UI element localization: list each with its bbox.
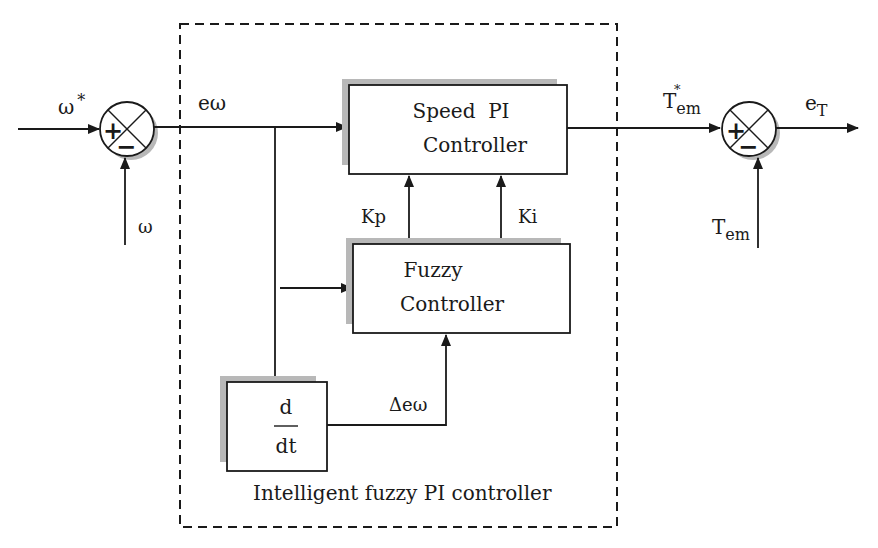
ki-label: Ki bbox=[518, 206, 537, 227]
derivative-block: d dt bbox=[220, 376, 327, 471]
omega-ref-label: ω* bbox=[58, 91, 85, 119]
derivative-numerator: d bbox=[280, 395, 293, 419]
derivative-denominator: dt bbox=[276, 434, 297, 458]
fuzzy-controller-block: Fuzzy Controller bbox=[346, 238, 570, 333]
minus-sign: − bbox=[738, 132, 758, 161]
tem-ref-label: Tem bbox=[663, 89, 701, 118]
tem-ref-star: * bbox=[674, 82, 681, 97]
delta-e-omega-signal-line bbox=[327, 335, 446, 425]
speed-error-summing-junction: + − bbox=[100, 102, 158, 161]
kp-label: Kp bbox=[361, 206, 386, 227]
e-t-label: eT bbox=[805, 91, 828, 120]
speed-pi-controller-block: Speed PI Controller bbox=[342, 79, 567, 174]
torque-error-summing-junction: + − bbox=[722, 102, 780, 161]
tem-label: Tem bbox=[712, 215, 750, 244]
container-caption: Intelligent fuzzy PI controller bbox=[253, 481, 552, 505]
fuzzy-subtitle: Controller bbox=[400, 292, 504, 316]
delta-e-omega-label: Δeω bbox=[389, 394, 427, 415]
speed-pi-title: Speed PI bbox=[412, 99, 509, 123]
fuzzy-title: Fuzzy bbox=[403, 258, 463, 282]
e-omega-label: eω bbox=[198, 91, 226, 115]
minus-sign: − bbox=[116, 132, 136, 161]
omega-label: ω bbox=[138, 216, 153, 237]
speed-pi-subtitle: Controller bbox=[423, 133, 527, 157]
fuzzy-pi-block-diagram: + − ω* ω eω Speed PI Controller Kp Ki Fu… bbox=[0, 0, 878, 548]
